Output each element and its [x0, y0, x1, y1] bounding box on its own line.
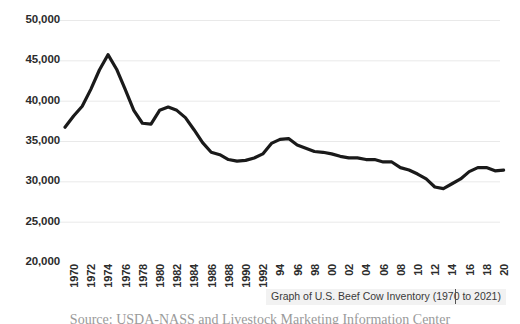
- x-tick-label: 1972: [86, 264, 96, 288]
- x-tick-label: 02: [344, 264, 354, 276]
- x-axis-tick-labels: 1970197219741976197819801982198419861988…: [0, 0, 520, 324]
- x-tick-label: 18: [482, 264, 492, 276]
- beef-cow-inventory-chart: 20,00025,00030,00035,00040,00045,00050,0…: [0, 0, 520, 324]
- x-tick-label: 1980: [155, 264, 165, 288]
- chart-title-tooltip: Graph of U.S. Beef Cow Inventory (1970 t…: [266, 289, 506, 305]
- x-tick-label: 1976: [121, 264, 131, 288]
- x-tick-label: 12: [430, 264, 440, 276]
- x-tick-label: 20: [499, 264, 509, 276]
- x-tick-label: 94: [275, 264, 285, 276]
- x-tick-label: 00: [327, 264, 337, 276]
- x-tick-label: 1988: [224, 264, 234, 288]
- x-tick-label: 1990: [241, 264, 251, 288]
- x-tick-label: 1986: [207, 264, 217, 288]
- x-tick-label: 1992: [258, 264, 268, 288]
- x-tick-label: 96: [293, 264, 303, 276]
- x-tick-label: 14: [447, 264, 457, 276]
- x-tick-label: 1984: [189, 264, 199, 288]
- text-cursor-caret: [455, 289, 456, 304]
- x-tick-label: 98: [310, 264, 320, 276]
- x-tick-label: 1974: [103, 264, 113, 288]
- x-tick-label: 1970: [69, 264, 79, 288]
- x-tick-label: 06: [379, 264, 389, 276]
- source-attribution: Source: USDA-NASS and Livestock Marketin…: [0, 311, 520, 324]
- x-tick-label: 08: [396, 264, 406, 276]
- x-tick-label: 1982: [172, 264, 182, 288]
- x-tick-label: 10: [413, 264, 423, 276]
- x-tick-label: 04: [361, 264, 371, 276]
- x-tick-label: 16: [465, 264, 475, 276]
- x-tick-label: 1978: [138, 264, 148, 288]
